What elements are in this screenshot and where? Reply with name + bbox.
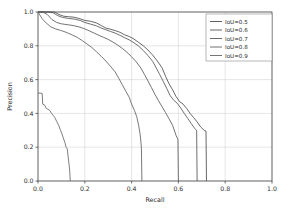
precision-recall-figure: 0.00.20.40.60.81.00.00.20.40.60.81.0Reca…: [0, 0, 290, 218]
legend-label-1: IoU=0.5: [225, 19, 248, 25]
series-line-iou-0-5: [38, 12, 206, 181]
y-tick-label: 0.2: [24, 143, 34, 150]
chart-canvas: 0.00.20.40.60.81.00.00.20.40.60.81.0Reca…: [0, 0, 290, 218]
series-line-iou-0-7: [38, 12, 178, 181]
series-line-iou-0-6: [38, 12, 197, 181]
series-line-iou-0-8: [38, 12, 142, 181]
x-tick-label: 0.8: [220, 185, 230, 192]
legend-label-5: IoU=0.9: [225, 53, 248, 59]
y-tick-label: 0.0: [24, 177, 34, 184]
x-tick-label: 0.2: [80, 185, 90, 192]
legend-label-4: IoU=0.8: [225, 44, 248, 50]
y-tick-label: 1.0: [24, 8, 34, 15]
y-tick-label: 0.6: [24, 76, 34, 83]
x-tick-label: 1.0: [267, 185, 277, 192]
x-axis-title: Recall: [145, 196, 164, 204]
x-tick-label: 0.6: [173, 185, 183, 192]
x-tick-label: 0.0: [33, 185, 43, 192]
y-tick-label: 0.4: [24, 110, 34, 117]
x-tick-label: 0.4: [127, 185, 137, 192]
legend-label-3: IoU=0.7: [225, 36, 248, 42]
y-axis-title: Precision: [6, 82, 14, 111]
series-line-iou-0-9: [38, 93, 70, 181]
legend-label-2: IoU=0.6: [225, 27, 248, 33]
y-tick-label: 0.8: [24, 42, 34, 49]
